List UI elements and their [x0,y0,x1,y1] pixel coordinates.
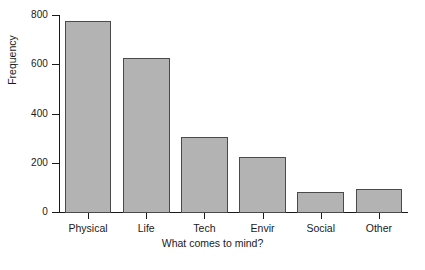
y-tick-label: 800 [31,10,48,20]
x-tick-label-social: Social [306,222,335,234]
bar-chart-figure: 0200400600800 PhysicalLifeTechEnvirSocia… [0,0,425,270]
y-tick-mark [52,163,59,164]
x-tick-mark [204,213,205,219]
y-axis-title: Frequency [6,20,18,100]
x-tick-label-envir: Envir [251,222,275,234]
x-tick-label-physical: Physical [69,222,108,234]
plot-area: 0200400600800 PhysicalLifeTechEnvirSocia… [0,0,425,270]
x-tick-label-life: Life [138,222,155,234]
figure-caption [14,262,412,270]
bar-physical [65,21,112,213]
y-axis-line [59,15,60,213]
y-tick-label: 400 [31,109,48,119]
bar-social [297,192,344,213]
x-tick-mark [379,213,380,219]
y-tick-mark [52,64,59,65]
x-tick-mark [321,213,322,219]
y-tick-label: 0 [42,207,48,217]
x-tick-label-other: Other [366,222,392,234]
x-tick-mark [88,213,89,219]
bar-tech [181,137,228,213]
y-tick-mark [52,15,59,16]
x-tick-label-tech: Tech [193,222,215,234]
y-tick-mark [52,114,59,115]
x-tick-mark [146,213,147,219]
y-tick-label: 600 [31,59,48,69]
x-axis-title: What comes to mind? [0,237,425,249]
bar-life [123,58,170,213]
bar-envir [239,157,286,213]
y-tick-label: 200 [31,158,48,168]
y-tick-mark [52,212,59,213]
x-tick-mark [263,213,264,219]
bar-other [356,189,403,213]
